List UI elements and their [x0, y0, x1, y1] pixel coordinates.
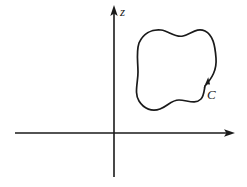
vertical-axis-group	[110, 5, 117, 177]
contour-curve-c	[136, 30, 216, 110]
vertical-axis-label: z	[120, 5, 125, 18]
figure-canvas: z C	[0, 0, 247, 187]
horizontal-axis-group	[15, 129, 235, 136]
contour-label: C	[207, 88, 216, 101]
contour-group	[136, 30, 216, 110]
